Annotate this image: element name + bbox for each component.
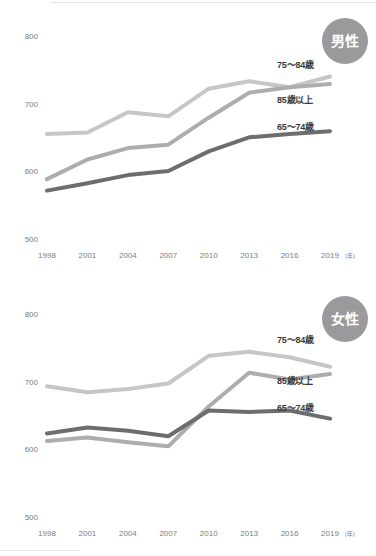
line-chart-male: 8007006005001998200120042007201020132016… — [0, 0, 376, 278]
male-ytick-800: 800 — [25, 32, 39, 41]
footer-divider — [0, 550, 80, 551]
male-xtick-2016: 2016 — [281, 251, 299, 260]
female-xtick-1998: 1998 — [38, 529, 56, 538]
badge-female: 女性 — [322, 296, 368, 342]
male-xtick-2010: 2010 — [200, 251, 218, 260]
male-xtick-2007: 2007 — [159, 251, 177, 260]
series-label-male-75-84: 75～84歳 — [277, 58, 314, 71]
female-xtick-2019: 2019 — [321, 529, 339, 538]
line-chart-female: 8007006005001998200120042007201020132016… — [0, 278, 376, 556]
series-label-female-65-74: 65～74歳 — [277, 401, 314, 414]
male-xtick-2001: 2001 — [79, 251, 97, 260]
female-xtick-2016: 2016 — [281, 529, 299, 538]
male-xtick-2013: 2013 — [240, 251, 258, 260]
male-ytick-600: 600 — [25, 167, 39, 176]
male-ytick-700: 700 — [25, 100, 39, 109]
female-ytick-800: 800 — [25, 310, 39, 319]
series-label-female-75-84: 75～84歳 — [277, 333, 314, 346]
badge-male: 男性 — [322, 18, 368, 64]
female-series-2 — [47, 411, 330, 437]
series-label-male-85-plus: 85歳以上 — [277, 93, 313, 106]
male-x-unit: (年) — [345, 252, 355, 260]
female-xtick-2007: 2007 — [159, 529, 177, 538]
female-x-unit: (年) — [345, 530, 355, 538]
female-ytick-700: 700 — [25, 378, 39, 387]
female-xtick-2013: 2013 — [240, 529, 258, 538]
male-xtick-2004: 2004 — [119, 251, 137, 260]
series-label-female-85-plus: 85歳以上 — [277, 374, 313, 387]
male-xtick-2019: 2019 — [321, 251, 339, 260]
female-ytick-600: 600 — [25, 445, 39, 454]
chart-panel-female: 8007006005001998200120042007201020132016… — [0, 278, 376, 556]
female-xtick-2010: 2010 — [200, 529, 218, 538]
female-xtick-2001: 2001 — [79, 529, 97, 538]
chart-panel-male: 8007006005001998200120042007201020132016… — [0, 0, 376, 278]
male-xtick-1998: 1998 — [38, 251, 56, 260]
series-label-male-65-74: 65～74歳 — [277, 120, 314, 133]
male-ytick-500: 500 — [25, 235, 39, 244]
female-xtick-2004: 2004 — [119, 529, 137, 538]
female-ytick-500: 500 — [25, 513, 39, 522]
